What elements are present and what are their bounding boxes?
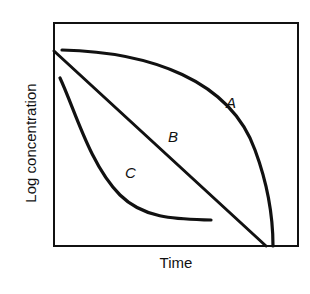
- x-axis-label: Time: [160, 254, 193, 271]
- chart: A B C Time Log concentration: [0, 0, 310, 294]
- curve-a-label: A: [225, 94, 236, 111]
- y-axis-label: Log concentration: [22, 83, 39, 202]
- curve-c: [60, 78, 211, 220]
- curve-b-label: B: [168, 128, 178, 145]
- curve-c-label: C: [125, 164, 136, 181]
